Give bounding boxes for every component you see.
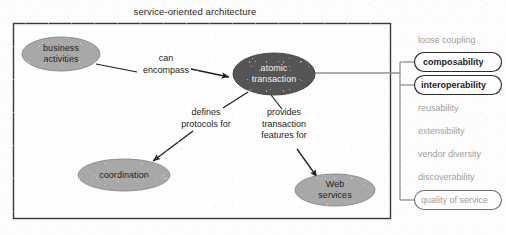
edge-label-can-encompass: can encompass [126,53,206,76]
quality-item-label: discoverability [418,172,475,182]
quality-item-vendor-diversity[interactable]: vendor diversity [418,148,481,160]
quality-item-label: vendor diversity [418,149,481,159]
quality-item-label: interoperability [421,80,486,90]
node-business-activities[interactable] [22,37,100,71]
diagram-title: service-oriented architecture [0,6,390,17]
quality-item-extensibility[interactable]: extensibility [418,125,465,137]
edge-label-line: transaction [244,119,324,131]
node-coordination[interactable] [78,159,170,191]
diagram-canvas: service-oriented architecture business a… [0,0,506,235]
edge-label-line: protocols for [166,119,246,131]
quality-item-label: loose coupling [418,35,476,45]
node-atomic-transaction[interactable] [233,53,315,95]
edge-label-line: can [126,53,206,65]
edge-label-line: defines [166,107,246,119]
node-web-services[interactable] [295,174,375,206]
quality-item-label: reusability [418,103,459,113]
edge-label-defines-protocols-for: defines protocols for [166,107,246,130]
quality-item-label: composability [423,57,484,67]
quality-item-label: quality of service [421,195,488,205]
edge-label-line: provides [244,107,324,119]
edge-label-provides-transaction-features-for: provides transaction features for [244,107,324,142]
quality-item-loose-coupling[interactable]: loose coupling [418,34,476,46]
quality-item-interoperability[interactable]: interoperability [421,79,486,91]
edge-label-line: features for [244,130,324,142]
quality-item-discoverability[interactable]: discoverability [418,171,475,183]
quality-item-composability[interactable]: composability [423,56,484,68]
edge-label-line: encompass [126,65,206,77]
quality-item-quality-of-service[interactable]: quality of service [421,194,488,206]
quality-item-reusability[interactable]: reusability [418,102,459,114]
quality-item-label: extensibility [418,126,465,136]
